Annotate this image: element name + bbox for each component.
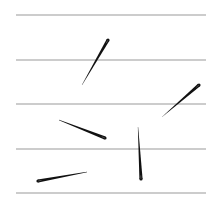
needle-2 xyxy=(162,83,201,117)
needle-body xyxy=(162,84,200,117)
needle-body xyxy=(38,172,87,183)
needle-4 xyxy=(138,127,143,181)
needle-5 xyxy=(36,172,87,183)
diagram-canvas xyxy=(0,0,219,208)
needle-body xyxy=(138,127,143,179)
needle-eye-cap xyxy=(106,38,109,41)
needle-1 xyxy=(82,38,110,85)
needle-3 xyxy=(59,120,107,140)
buffon-needle-diagram xyxy=(0,0,219,208)
needle-eye-cap xyxy=(103,136,106,139)
needle-body xyxy=(59,120,106,140)
needle-body xyxy=(82,39,110,85)
